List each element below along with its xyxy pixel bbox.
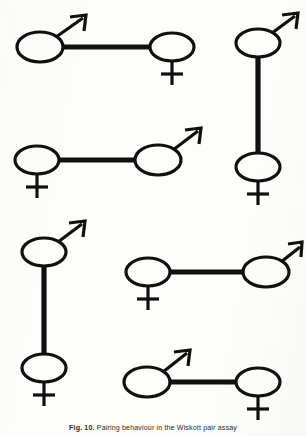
- male-symbol-circle: [124, 367, 170, 397]
- figure-caption-text: Pairing behaviour in the Wiskott pair as…: [97, 424, 237, 432]
- female-symbol-circle: [236, 153, 280, 181]
- female-symbol-circle: [236, 368, 280, 396]
- male-symbol-circle: [236, 29, 280, 57]
- female-symbol-circle: [150, 33, 194, 61]
- male-symbol-circle: [17, 32, 63, 62]
- figure-caption-label: Fig. 10.: [69, 424, 95, 432]
- figure-caption: Fig. 10. Pairing behaviour in the Wiskot…: [0, 424, 306, 433]
- female-symbol-circle: [15, 146, 59, 174]
- male-symbol-circle: [135, 145, 181, 175]
- pair-diagram-illustration: .body-ellipse { fill: #fdfdfc; stroke: #…: [0, 0, 306, 436]
- figure-container: .body-ellipse { fill: #fdfdfc; stroke: #…: [0, 0, 306, 436]
- female-symbol-circle: [126, 258, 170, 286]
- male-symbol-circle: [243, 257, 289, 287]
- male-symbol-circle: [22, 238, 66, 266]
- female-symbol-circle: [22, 354, 66, 382]
